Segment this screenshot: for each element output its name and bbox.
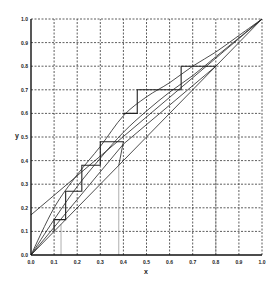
x-tick-label: 0.4 [120,259,127,265]
x-tick-label: 0.9 [235,259,242,265]
y-tick-label: 0.0 [21,252,28,258]
y-tick-label: 0.1 [21,228,28,234]
y-tick-label: 0.6 [21,110,28,116]
mccabe-thiele-chart: 0.00.10.20.30.40.50.60.70.80.91.00.00.10… [0,0,276,286]
y-tick-label: 0.8 [21,63,28,69]
x-tick-label: 1.0 [259,259,266,265]
x-tick-label: 0.1 [51,259,58,265]
y-tick-label: 1.0 [21,16,28,22]
y-tick-label: 0.4 [21,158,28,164]
x-tick-label: 0.6 [166,259,173,265]
x-tick-label: 0.0 [28,259,35,265]
y-axis-label: y [15,132,19,140]
y-tick-label: 0.7 [21,87,28,93]
x-axis-label: x [144,268,148,275]
x-tick-label: 0.8 [212,259,219,265]
x-tick-label: 0.3 [97,259,104,265]
y-tick-label: 0.5 [21,134,28,140]
x-tick-label: 0.2 [74,259,81,265]
y-tick-label: 0.9 [21,40,28,46]
x-tick-label: 0.7 [189,259,196,265]
y-tick-label: 0.3 [21,181,28,187]
x-tick-label: 0.5 [143,259,150,265]
y-tick-label: 0.2 [21,205,28,211]
